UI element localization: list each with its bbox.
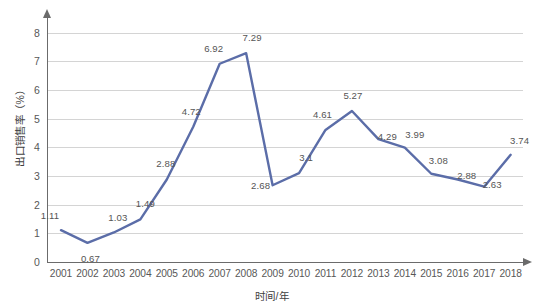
data-point-label: 1.11 xyxy=(30,210,70,221)
data-point-label: 2.63 xyxy=(472,179,512,190)
data-point-label: 2.88 xyxy=(146,158,186,169)
data-point-label: 0.67 xyxy=(70,253,110,264)
data-point-label: 2.68 xyxy=(241,180,281,191)
x-axis-title: 时间/年 xyxy=(0,288,544,303)
data-point-label: 7.29 xyxy=(232,32,272,43)
data-point-label: 4.72 xyxy=(171,106,211,117)
data-point-label: 5.27 xyxy=(333,90,373,101)
data-point-label: 4.61 xyxy=(303,109,343,120)
data-point-label: 1.03 xyxy=(98,212,138,223)
data-point-label: 3.08 xyxy=(418,155,458,166)
line-chart-figure: 012345678 200120022003200420052006200720… xyxy=(0,0,544,305)
data-point-label: 3.1 xyxy=(286,152,326,163)
data-point-label: 6.92 xyxy=(194,43,234,54)
data-point-label: 3.99 xyxy=(395,129,435,140)
x-axis-tick-label: 2018 xyxy=(491,268,531,279)
data-point-label: 1.49 xyxy=(125,198,165,209)
y-axis-title: 出口销售率（%） xyxy=(12,61,27,191)
data-point-label: 3.74 xyxy=(500,135,540,146)
